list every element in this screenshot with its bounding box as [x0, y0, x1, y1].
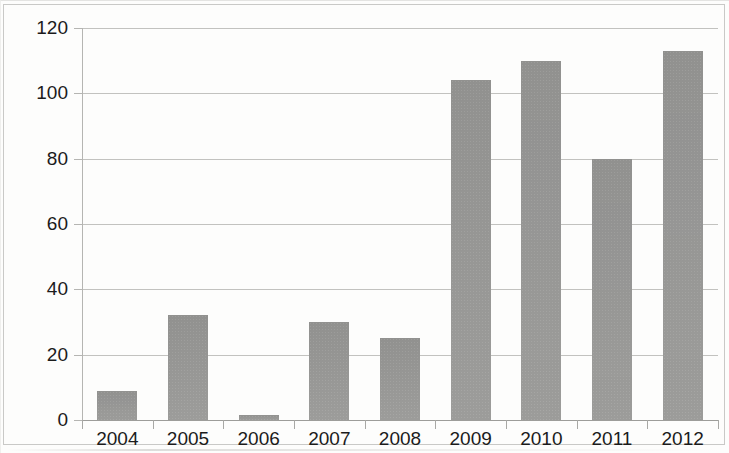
y-tick-20: [74, 355, 82, 356]
x-tick-2005: [153, 420, 154, 429]
x-tick-2009: [435, 420, 436, 429]
x-tick-label-2009: 2009: [435, 429, 506, 450]
bar-2008: [380, 338, 420, 420]
bar-2012: [663, 51, 703, 420]
y-tick-60: [74, 224, 82, 225]
bar-slot: [506, 28, 577, 420]
bar-slot: [223, 28, 294, 420]
x-tick-label-2012: 2012: [647, 429, 718, 450]
bar-series: [82, 28, 718, 420]
y-tick-label-40: 40: [6, 279, 68, 298]
x-tick-label-2005: 2005: [153, 429, 224, 450]
y-tick-0: [74, 420, 82, 421]
x-tick-label-2010: 2010: [506, 429, 577, 450]
bar-2009: [451, 80, 491, 420]
bar-2005: [168, 315, 208, 420]
x-tick-label-2006: 2006: [223, 429, 294, 450]
x-tick-label-2007: 2007: [294, 429, 365, 450]
x-tick-label-2008: 2008: [365, 429, 436, 450]
x-tick-2006: [223, 420, 224, 429]
bar-slot: [647, 28, 718, 420]
x-axis-labels: 200420052006200720082009201020112012: [82, 429, 718, 453]
bar-slot: [294, 28, 365, 420]
y-tick-100: [74, 93, 82, 94]
bar-2007: [309, 322, 349, 420]
x-tick-2010: [506, 420, 507, 429]
y-tick-label-80: 80: [6, 149, 68, 168]
bar-slot: [153, 28, 224, 420]
y-tick-label-60: 60: [6, 214, 68, 233]
x-tick-2007: [294, 420, 295, 429]
y-tick-label-20: 20: [6, 345, 68, 364]
y-tick-80: [74, 159, 82, 160]
y-tick-label-0: 0: [6, 410, 68, 429]
bar-slot: [577, 28, 648, 420]
y-tick-120: [74, 28, 82, 29]
bar-chart-figure: 020406080100120 200420052006200720082009…: [0, 0, 729, 453]
y-axis-labels: 020406080100120: [0, 0, 68, 453]
x-tick-2004: [82, 420, 83, 429]
bar-slot: [435, 28, 506, 420]
bar-slot: [365, 28, 436, 420]
bar-2004: [97, 391, 137, 420]
x-tick-end: [718, 420, 719, 429]
x-tick-label-2011: 2011: [577, 429, 648, 450]
y-tick-40: [74, 289, 82, 290]
bar-2011: [592, 159, 632, 420]
y-tick-label-120: 120: [6, 18, 68, 37]
bar-2010: [521, 61, 561, 420]
x-tick-label-2004: 2004: [82, 429, 153, 450]
x-tick-2008: [365, 420, 366, 429]
y-tick-label-100: 100: [6, 83, 68, 102]
x-axis-line: [82, 420, 718, 421]
x-tick-2011: [577, 420, 578, 429]
x-tick-2012: [647, 420, 648, 429]
bar-slot: [82, 28, 153, 420]
